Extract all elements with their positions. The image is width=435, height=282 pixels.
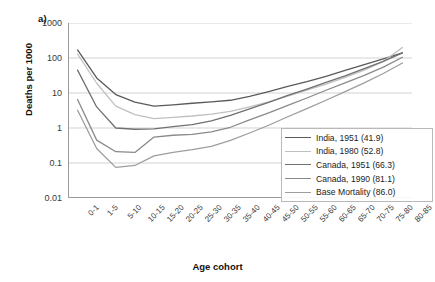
legend-line-swatch [285,164,311,165]
legend-item-0[interactable]: India, 1951 (41.9) [282,131,432,145]
y-tick-label: 1 [16,123,62,133]
legend-item-2[interactable]: Canada, 1951 (66.3) [282,158,432,172]
legend-line-swatch [285,192,311,193]
x-tick-label: 10-15 [146,203,167,224]
legend-label: Canada, 1951 (66.3) [316,160,395,170]
x-tick-label: 35-40 [241,203,262,224]
x-tick-label: 65-70 [356,203,377,224]
legend-item-1[interactable]: India, 1980 (52.8) [282,145,432,159]
y-tick-label: 100 [16,53,62,63]
x-tick-label: 55-60 [318,203,339,224]
legend-label: Canada, 1990 (81.1) [316,174,395,184]
legend-item-3[interactable]: Canada, 1990 (81.1) [282,172,432,186]
x-tick-label: 75-80 [394,203,415,224]
y-tick-label: 0.01 [16,193,62,203]
x-tick-label: 45-50 [280,203,301,224]
x-tick-label: 60-65 [337,203,358,224]
y-tick-label: 10 [16,88,62,98]
legend-item-4[interactable]: Base Mortality (86.0) [282,185,432,199]
y-tick-label: 1000 [16,18,62,28]
legend-label: India, 1951 (41.9) [316,133,383,143]
x-tick-label: 20-25 [184,203,205,224]
x-tick-label: 30-35 [222,203,243,224]
legend-line-swatch [285,137,311,138]
x-tick-label: 80-85 [413,203,434,224]
chart-legend: India, 1951 (41.9)India, 1980 (52.8)Cana… [281,128,433,202]
legend-label: Base Mortality (86.0) [316,187,395,197]
series-line-2 [78,53,403,129]
x-axis-title: Age cohort [0,261,435,272]
x-tick-label: 1-5 [105,203,120,218]
x-tick-label: 15-20 [165,203,186,224]
legend-line-swatch [285,151,311,152]
figure-container: a) Deaths per 1000 Age cohort 1000100101… [0,0,435,282]
y-tick-label: 0.1 [16,158,62,168]
x-tick-label: 70-75 [375,203,396,224]
x-tick-label: 50-55 [299,203,320,224]
x-tick-label: 0-1 [86,203,101,218]
x-tick-label: 40-45 [261,203,282,224]
x-tick-label: 25-30 [203,203,224,224]
legend-label: India, 1980 (52.8) [316,146,383,156]
legend-line-swatch [285,178,311,179]
x-tick-label: 5-10 [125,203,143,221]
